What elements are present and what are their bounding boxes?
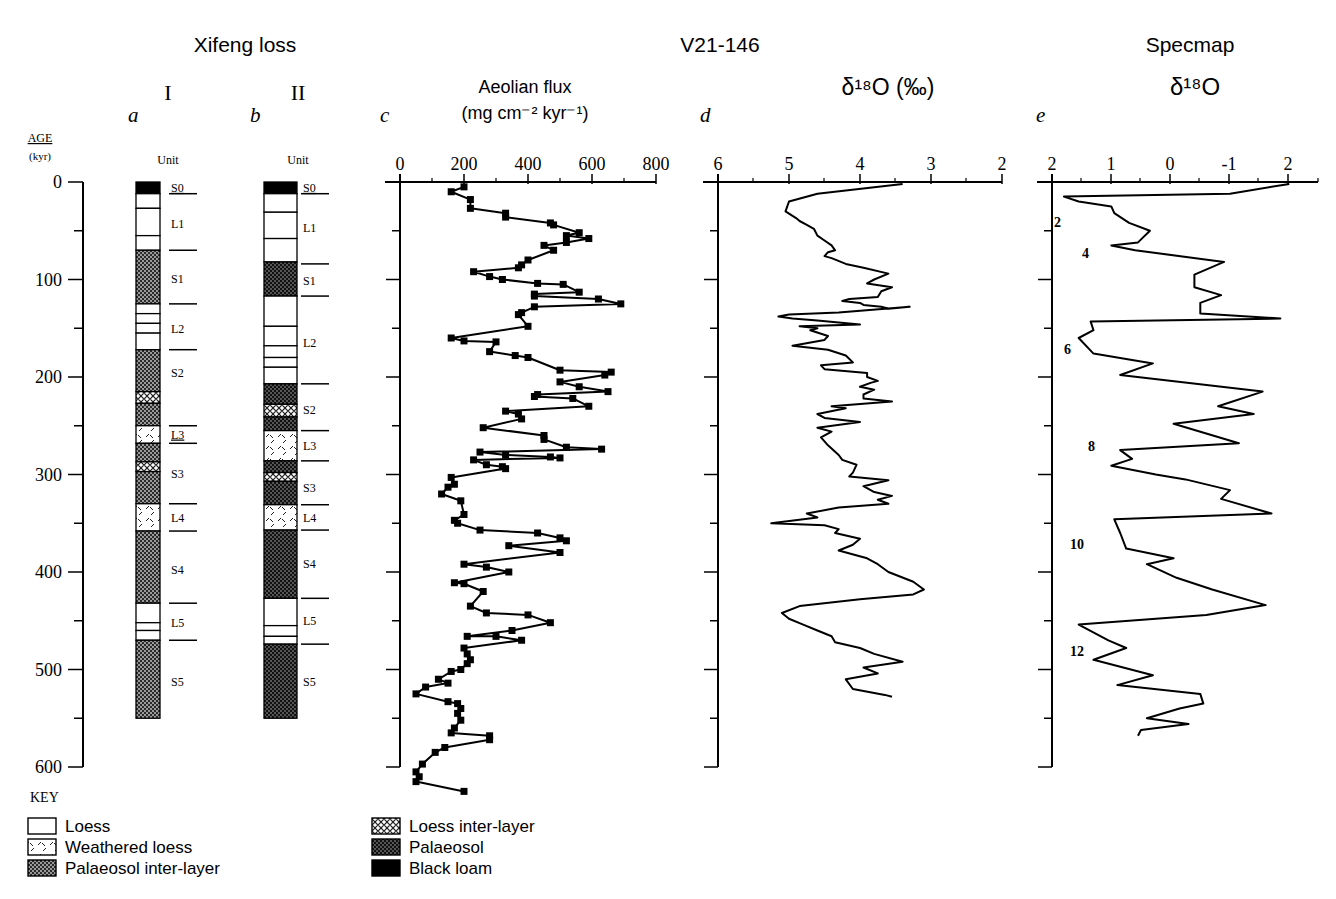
data-marker	[547, 619, 554, 626]
aeolian-flux-plot: 0200400600800	[385, 154, 670, 795]
data-marker	[531, 293, 538, 300]
data-marker	[541, 436, 548, 443]
data-series	[771, 184, 924, 697]
x-tick-label: 4	[856, 154, 865, 174]
data-marker	[467, 603, 474, 610]
layer-loess	[264, 239, 297, 262]
layer-palaeosol	[264, 530, 297, 598]
data-marker	[505, 569, 512, 576]
data-marker	[563, 444, 570, 451]
data-marker	[515, 264, 522, 271]
legend-label: Weathered loess	[65, 838, 192, 857]
data-marker	[470, 456, 477, 463]
legend-title: KEY	[30, 790, 59, 805]
layer-loess	[136, 208, 160, 235]
layer-palaeo-inter	[136, 403, 160, 425]
unit-label: S3	[171, 467, 184, 481]
data-marker	[531, 393, 538, 400]
figure-canvas: Xifeng loss V21-146 Specmap I II a b c d…	[0, 0, 1336, 899]
data-marker	[477, 449, 484, 456]
layer-palaeo-inter	[136, 640, 160, 718]
layer-weathered	[136, 504, 160, 531]
unit-label: S5	[171, 675, 184, 689]
data-marker	[451, 579, 458, 586]
data-marker	[457, 497, 464, 504]
data-marker	[557, 534, 564, 541]
data-marker	[470, 268, 477, 275]
data-marker	[467, 205, 474, 212]
age-axis-units: (kyr)	[29, 150, 51, 163]
legend-swatch-palaeo-inter	[28, 860, 56, 876]
layer-loess	[264, 296, 297, 326]
data-marker	[550, 247, 557, 254]
data-series	[1064, 184, 1289, 736]
legend-swatch-black	[372, 860, 400, 876]
layer-weathered	[264, 505, 297, 530]
data-marker	[483, 564, 490, 571]
data-marker	[448, 335, 455, 342]
unit-label: L1	[303, 221, 316, 235]
stratigraphic-column-a: S0L1S1L2S2L3S3L4S4L5S5	[136, 181, 197, 718]
data-marker	[483, 609, 490, 616]
data-marker	[445, 680, 452, 687]
layer-black	[136, 182, 160, 194]
unit-label: S0	[171, 181, 184, 195]
data-marker	[493, 633, 500, 640]
x-tick-label: 400	[515, 154, 542, 174]
layer-loess	[264, 212, 297, 238]
age-tick-label: 300	[35, 465, 62, 485]
legend-label: Palaeosol	[409, 838, 484, 857]
data-marker	[585, 235, 592, 242]
unit-label: L2	[171, 322, 184, 336]
age-tick-label: 600	[35, 757, 62, 777]
layer-palaeosol	[264, 481, 297, 504]
unit-label: L4	[171, 511, 184, 525]
layer-loess	[136, 631, 160, 641]
data-marker	[557, 367, 564, 374]
x-tick-label: 200	[451, 154, 478, 174]
data-marker	[525, 257, 532, 264]
legend-swatch-loess-inter	[372, 818, 400, 834]
isotope-stage-label: 12	[1070, 644, 1084, 659]
legend-swatch-palaeosol	[372, 839, 400, 855]
data-marker	[605, 388, 612, 395]
age-tick-label: 200	[35, 367, 62, 387]
layer-loess	[136, 304, 160, 314]
age-axis-label: AGE	[28, 131, 53, 145]
data-marker	[451, 481, 458, 488]
layer-palaeosol	[264, 461, 297, 473]
d18o-title-e: δ¹⁸O	[1170, 73, 1220, 100]
data-marker	[454, 710, 461, 717]
data-marker	[550, 221, 557, 228]
legend-label: Palaeosol inter-layer	[65, 859, 220, 878]
data-marker	[563, 239, 570, 246]
layer-loess	[264, 598, 297, 625]
data-marker	[576, 229, 583, 236]
data-marker	[525, 323, 532, 330]
layer-palaeosol	[264, 644, 297, 718]
isotope-stage-label: 6	[1064, 342, 1071, 357]
unit-label: L3	[303, 439, 316, 453]
layer-loess-inter	[264, 473, 297, 482]
x-tick-label: 0	[396, 154, 405, 174]
data-marker	[509, 627, 516, 634]
unit-label: L3	[171, 428, 184, 442]
unit-header-b: Unit	[287, 153, 309, 167]
layer-loess	[136, 603, 160, 623]
data-marker	[518, 637, 525, 644]
v21-title: V21-146	[680, 33, 759, 56]
layer-loess	[136, 194, 160, 209]
data-marker	[560, 281, 567, 288]
layer-loess-inter	[136, 392, 160, 404]
x-tick-label: 600	[579, 154, 606, 174]
data-marker	[432, 749, 439, 756]
data-marker	[486, 736, 493, 743]
data-marker	[435, 676, 442, 683]
data-marker	[457, 666, 464, 673]
specmap-d18o-plot: 210-1224681012	[1037, 154, 1318, 767]
data-marker	[461, 183, 468, 190]
layer-palaeo-inter	[136, 472, 160, 504]
layer-loess	[136, 323, 160, 333]
data-marker	[531, 303, 538, 310]
x-tick-label: -1	[1222, 154, 1237, 174]
